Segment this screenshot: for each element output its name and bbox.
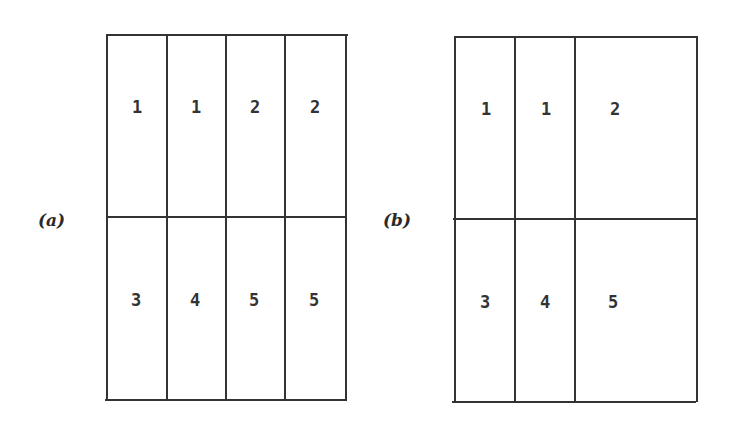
panel-b-divider-2 [574,36,576,402]
panel-b-cell-r1c2: 1 [541,99,551,119]
panel-b-cell-r1c3: 2 [610,99,620,119]
panel-b-divider-1 [514,36,516,402]
panel-b-cell-r2c3: 5 [608,292,618,312]
panel-b-top-border [455,36,698,38]
panel-b-left-border [454,36,456,402]
panel-b-grid: 1 1 2 3 4 5 [0,0,729,426]
panel-b-right-border [696,36,698,402]
panel-b-cell-r2c2: 4 [540,292,550,312]
panel-b-cell-r1c1: 1 [481,99,491,119]
panel-b-cell-r2c1: 3 [480,292,490,312]
